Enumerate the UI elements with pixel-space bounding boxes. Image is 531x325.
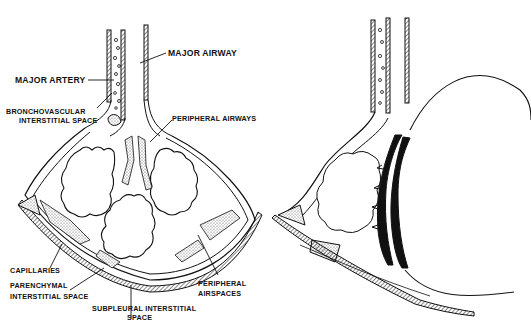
label-peripheral-airways: PERIPHERAL AIRWAYS (172, 115, 256, 123)
label-parenchymal-line1: PARENCHYMAL (10, 282, 68, 290)
label-bronchovascular-line2: INTERSTITIAL SPACE (19, 117, 97, 125)
right-panel (272, 18, 531, 316)
label-major-airway: MAJOR AIRWAY (168, 49, 237, 59)
label-peripheral-airspaces-line1: PERIPHERAL (198, 280, 246, 288)
major-airway-shape (144, 25, 172, 136)
label-major-artery: MAJOR ARTERY (15, 76, 86, 86)
label-capillaries: CAPILLARIES (10, 267, 60, 275)
label-parenchymal-line2: INTERSTITIAL SPACE (10, 293, 88, 301)
label-subpleural-line2: SPACE (127, 314, 152, 322)
lung-lobule-diagram (0, 0, 531, 325)
label-peripheral-airspaces-line2: AIRSPACES (198, 290, 241, 298)
